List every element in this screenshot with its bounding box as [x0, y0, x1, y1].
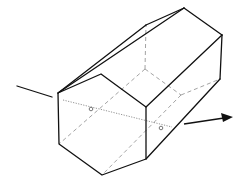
- hidden-back-edge-3: [145, 25, 146, 69]
- incoming-line: [17, 86, 52, 97]
- back-right-edge: [220, 35, 222, 79]
- hidden-edges: [59, 25, 220, 175]
- axis-line: [63, 100, 172, 127]
- hidden-back-edge-2: [181, 79, 220, 95]
- arrow-shaft: [184, 118, 224, 124]
- center-axis: [63, 100, 172, 130]
- outgoing-arrow: [184, 113, 233, 124]
- arrow-head-icon: [221, 113, 233, 122]
- back-top-right-edge: [184, 8, 222, 35]
- front-center-point: [89, 107, 93, 111]
- lateral-edge-top-left: [58, 25, 146, 93]
- back-top-left-edge: [146, 8, 184, 25]
- lateral-edge-bottom-right: [146, 79, 220, 159]
- back-center-point: [159, 126, 163, 130]
- lateral-edge-top-right: [146, 35, 222, 107]
- hidden-lateral-edge-1: [59, 69, 145, 144]
- hexagonal-prism-diagram: [0, 0, 245, 186]
- visible-edges: [58, 8, 222, 175]
- lateral-edge-top-left-2: [58, 8, 184, 93]
- front-hexagon-face: [58, 74, 146, 175]
- hidden-lateral-edge-2: [102, 95, 181, 175]
